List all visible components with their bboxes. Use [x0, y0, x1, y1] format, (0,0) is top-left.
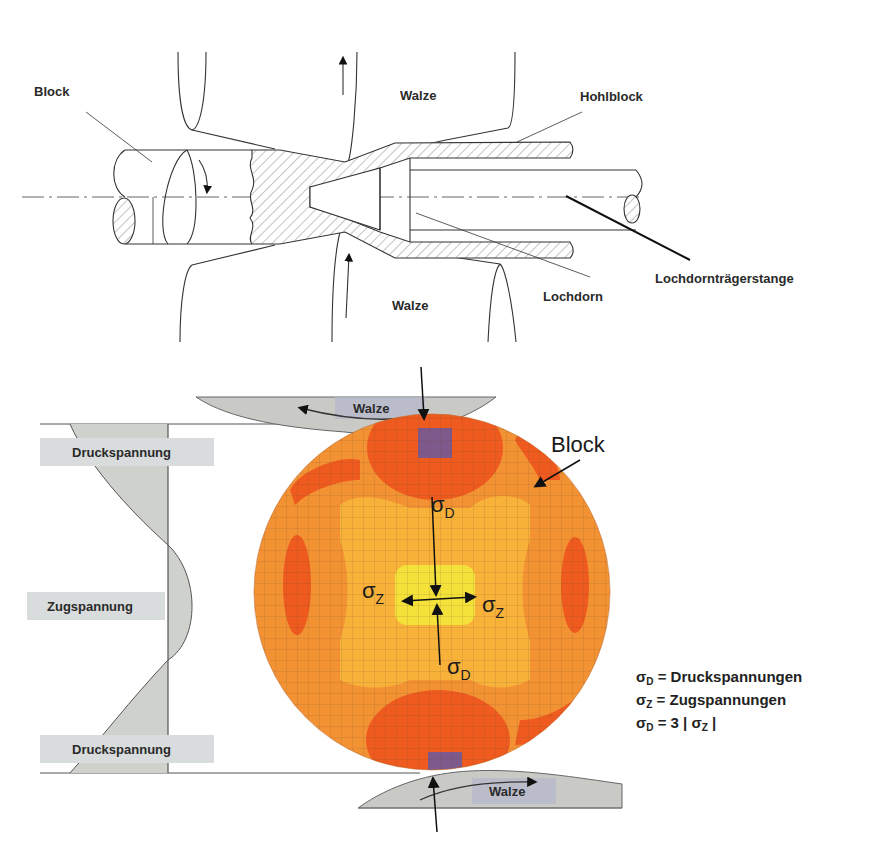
- label-lochdorntraegerstange: Lochdornträgerstange: [655, 271, 794, 286]
- label-walze-roll-bottom: Walze: [489, 784, 525, 799]
- rotation-arrow-icon: [199, 160, 207, 192]
- legend-line-druck: σD = Druckspannungen: [636, 668, 802, 691]
- druckspannung-bottom-box: Druckspannung: [40, 735, 214, 763]
- label-block-bottom: Block: [551, 432, 606, 457]
- leader-hohlblock: [517, 112, 582, 142]
- label-block: Block: [34, 84, 70, 99]
- druckspannung-top-box: Druckspannung: [40, 438, 214, 466]
- legend-line-zug: σZ = Zugspannungen: [636, 691, 802, 714]
- roll-upper-left-edge: [178, 52, 206, 130]
- svg-text:Druckspannung: Druckspannung: [72, 742, 171, 757]
- label-walze-bottom: Walze: [392, 298, 428, 313]
- roll-upper-center-edge: [348, 52, 357, 163]
- roll-lower-center-edge: [332, 232, 340, 342]
- svg-text:Zugspannung: Zugspannung: [47, 599, 133, 614]
- svg-text:Druckspannung: Druckspannung: [72, 445, 171, 460]
- roll-lower-right-edge: [488, 264, 500, 342]
- roll-rotation-arrow-up-lower-icon: [346, 255, 349, 318]
- legend-line-ratio: σD = 3 | σZ |: [636, 714, 802, 737]
- label-walze-top: Walze: [400, 88, 436, 103]
- roll-lower-left-edge: [180, 265, 192, 342]
- label-hohlblock: Hohlblock: [580, 89, 644, 104]
- legend: σD = Druckspannungen σZ = Zugspannungen …: [636, 668, 802, 737]
- mandrel-bar-section: [624, 195, 640, 223]
- label-lochdorn: Lochdorn: [543, 289, 603, 304]
- block-end-section: [113, 198, 135, 244]
- zugspannung-box: Zugspannung: [27, 592, 165, 620]
- hatched-workpiece: [250, 142, 573, 258]
- leader-block: [86, 112, 152, 162]
- roll-bottom: Walze: [358, 770, 622, 808]
- label-walze-roll-top: Walze: [353, 401, 389, 416]
